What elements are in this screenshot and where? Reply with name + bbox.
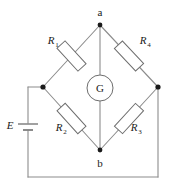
node-dot-a	[98, 23, 103, 28]
resistor-R1-label: R	[47, 34, 55, 46]
resistor-R4[interactable]: R 4	[114, 34, 151, 71]
node-label-b: b	[97, 157, 103, 169]
resistor-R2-subscript: 2	[63, 128, 67, 136]
resistor-R3-label: R	[130, 121, 138, 133]
resistor-R2-label: R	[55, 121, 63, 133]
resistor-R1-subscript: 1	[55, 41, 59, 49]
galvanometer[interactable]: G	[87, 75, 113, 101]
circuit-svg: R 1 R 4 R 2 R 3 G	[0, 0, 183, 189]
circuit-diagram: R 1 R 4 R 2 R 3 G	[0, 0, 183, 189]
node-dot-b	[98, 148, 103, 153]
resistor-R3[interactable]: R 3	[114, 103, 143, 136]
wire-group	[28, 25, 158, 177]
source-label: E	[6, 119, 14, 131]
resistor-R4-subscript: 4	[147, 41, 151, 49]
battery-symbol[interactable]	[18, 124, 38, 130]
node-label-a: a	[98, 6, 103, 18]
resistor-R4-label: R	[139, 34, 147, 46]
resistor-R2[interactable]: R 2	[55, 103, 86, 136]
resistor-R3-subscript: 3	[138, 128, 142, 136]
node-dot-left	[40, 84, 45, 89]
galvanometer-label: G	[96, 82, 104, 94]
resistor-R1[interactable]: R 1	[47, 34, 86, 71]
node-dot-right	[155, 84, 160, 89]
